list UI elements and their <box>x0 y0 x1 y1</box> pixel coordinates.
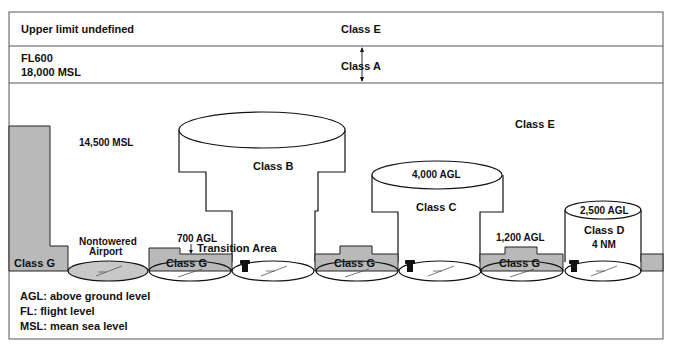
class-d-radius-label: 4 NM <box>592 239 616 250</box>
nontowered-airport <box>68 261 148 281</box>
class-g-edge-block <box>641 254 663 271</box>
fl600-label: FL600 <box>21 52 53 64</box>
transition-area-label: Transition Area <box>197 242 278 254</box>
class-g-mid-label: Class G <box>334 257 375 269</box>
class-c-ceiling-label: 4,000 AGL <box>412 169 461 180</box>
class-d-label: Class D <box>584 224 624 236</box>
14500-msl-label: 14,500 MSL <box>79 137 133 148</box>
18000-msl-label: 18,000 MSL <box>21 66 81 78</box>
class-a-label: Class A <box>341 60 381 72</box>
class-d-ceiling-label: 2,500 AGL <box>580 205 629 216</box>
class-e-label: Class E <box>515 118 555 130</box>
class-b-top-ellipse <box>179 112 345 148</box>
upper-limit-label: Upper limit undefined <box>21 23 134 35</box>
class-e-upper-label: Class E <box>341 23 381 35</box>
legend-agl: AGL: above ground level <box>20 290 150 302</box>
class-g-right-label: Class G <box>499 257 540 269</box>
airspace-diagram: Upper limit undefined Class E FL600 18,0… <box>0 0 673 349</box>
nontowered-label-line2: Airport <box>89 246 123 257</box>
class-g-left-label: Class G <box>14 257 55 269</box>
legend-msl: MSL: mean sea level <box>20 320 128 332</box>
legend-fl: FL: flight level <box>20 305 95 317</box>
class-b-label: Class B <box>253 160 293 172</box>
1200-agl-label: 1,200 AGL <box>496 232 545 243</box>
class-c-label: Class C <box>416 201 456 213</box>
class-g-transition-label: Class G <box>166 257 207 269</box>
